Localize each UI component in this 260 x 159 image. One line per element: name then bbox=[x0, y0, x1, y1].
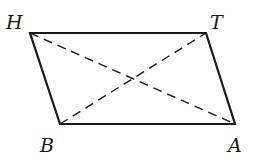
vertex-label-T: T bbox=[210, 11, 224, 33]
diagonal-HA bbox=[30, 33, 235, 124]
vertex-label-H: H bbox=[5, 11, 23, 33]
diagram-svg: H T A B bbox=[0, 0, 260, 159]
vertex-label-B: B bbox=[39, 134, 54, 156]
vertex-label-A: A bbox=[226, 134, 242, 156]
parallelogram-diagram: H T A B bbox=[0, 0, 260, 159]
